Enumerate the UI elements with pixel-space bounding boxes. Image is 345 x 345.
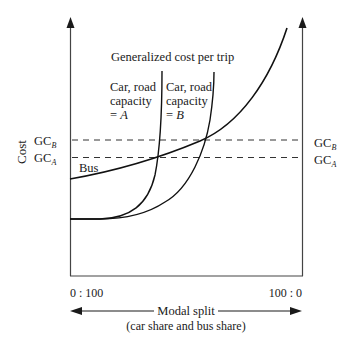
x-axis-title: Modal split	[157, 304, 215, 318]
left-gc-a-label: GCA	[34, 151, 56, 167]
left-axis-arrow-icon	[67, 17, 75, 28]
x-left-label: 0 : 100	[70, 286, 103, 300]
bus-label: Bus	[79, 161, 99, 175]
left-gc-b-label: GCB	[34, 134, 56, 150]
right-gc-b-label: GCB	[314, 136, 336, 152]
svg-text:= A: = A	[110, 108, 128, 122]
right-gc-a-label: GCA	[314, 153, 336, 169]
svg-text:= B: = B	[166, 108, 184, 122]
modal-split-diagram: Generalized cost per trip Car, road capa…	[0, 0, 345, 345]
y-axis-label: Cost	[14, 140, 29, 164]
car-capacity-b-label: Car, road capacity = B	[166, 80, 213, 122]
right-arrow-icon	[290, 307, 302, 315]
svg-text:capacity: capacity	[166, 94, 208, 108]
left-arrow-icon	[70, 307, 82, 315]
diagram-title: Generalized cost per trip	[111, 50, 234, 64]
svg-text:Car, road: Car, road	[166, 80, 213, 94]
car-capacity-a-label: Car, road capacity = A	[110, 80, 157, 122]
x-right-label: 100 : 0	[269, 286, 302, 300]
right-axis-arrow-icon	[299, 17, 307, 28]
svg-text:capacity: capacity	[110, 94, 152, 108]
svg-text:Car, road: Car, road	[110, 80, 157, 94]
x-axis-subtitle: (car share and bus share)	[126, 319, 245, 333]
